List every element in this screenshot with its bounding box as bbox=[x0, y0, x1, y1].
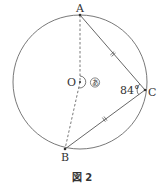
chord-bc bbox=[65, 90, 145, 149]
angle-c-label: 84° bbox=[120, 84, 140, 97]
point-b bbox=[64, 148, 67, 151]
figure-caption: 図 2 bbox=[72, 172, 92, 183]
unknown-angle-label: あ bbox=[92, 79, 99, 87]
circle-diagram: A B C O 84° あ 図 2 bbox=[0, 0, 165, 189]
label-b: B bbox=[61, 151, 69, 164]
unknown-angle-marker: あ bbox=[90, 78, 99, 87]
chord-ac bbox=[80, 15, 145, 90]
label-c: C bbox=[148, 86, 156, 99]
label-o: O bbox=[67, 76, 76, 89]
radius-ob bbox=[65, 82, 80, 149]
point-o bbox=[79, 81, 81, 83]
point-c bbox=[144, 89, 147, 92]
label-a: A bbox=[75, 2, 85, 15]
